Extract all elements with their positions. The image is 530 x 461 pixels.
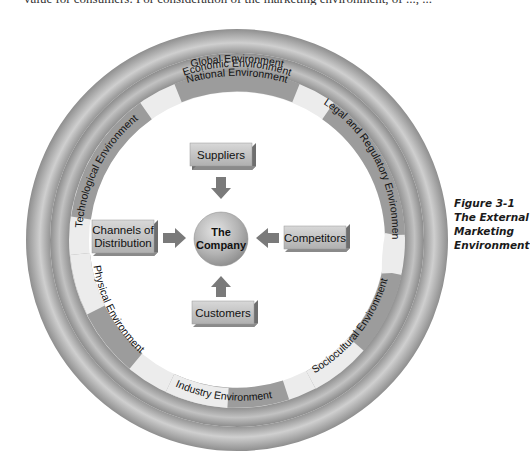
channels-of-distribution-box: Channels of Distribution — [92, 220, 158, 256]
customers-box: Customers — [192, 300, 258, 327]
caption-title-line3: Environment — [454, 238, 530, 252]
arrow-right-icon — [163, 228, 186, 248]
suppliers-label: Suppliers — [197, 149, 245, 161]
economic-segment — [178, 82, 296, 93]
company-label-line1: The — [211, 226, 231, 238]
customers-label: Customers — [195, 307, 251, 319]
suppliers-box: Suppliers — [190, 143, 256, 170]
caption-title-line1: The External — [454, 210, 530, 224]
channels-label-line2: Distribution — [94, 237, 152, 249]
channels-label-line1: Channels of — [92, 224, 154, 236]
the-company-node: The Company — [194, 212, 248, 266]
arrow-left-icon — [256, 228, 279, 248]
competitors-label: Competitors — [284, 232, 346, 244]
arrow-down-icon — [211, 177, 231, 199]
caption-figure-number: Figure 3-1 — [454, 196, 530, 210]
company-label-line2: Company — [196, 239, 247, 251]
competitors-box: Competitors — [284, 224, 350, 252]
figure-caption: Figure 3-1 The External Marketing Enviro… — [454, 196, 530, 252]
arrow-up-icon — [211, 276, 231, 297]
caption-title-line2: Marketing — [454, 224, 530, 238]
